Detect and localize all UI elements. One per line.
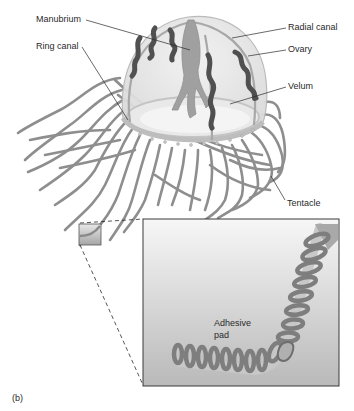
label-adhesive-pad-line2: pad <box>214 330 229 341</box>
inset-panel <box>143 219 339 386</box>
panel-label: (b) <box>12 393 23 404</box>
label-ring-canal: Ring canal <box>36 41 79 52</box>
label-tentacle: Tentacle <box>287 198 321 209</box>
label-adhesive-pad-line1: Adhesive <box>214 318 251 329</box>
label-radial-canal: Radial canal <box>288 22 338 33</box>
label-ovary: Ovary <box>288 44 312 55</box>
label-manubrium: Manubrium <box>36 14 81 25</box>
label-velum: Velum <box>288 81 313 92</box>
